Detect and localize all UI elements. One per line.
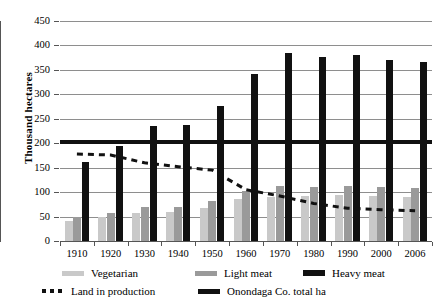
x-tick-mark — [128, 242, 129, 246]
y-tick-mark — [54, 45, 59, 46]
y-tick-label: 150 — [18, 163, 50, 173]
x-tick-mark — [398, 242, 399, 246]
x-tick-mark — [331, 242, 332, 246]
legend-label: Vegetarian — [91, 267, 138, 279]
gridline-0 — [60, 241, 432, 242]
x-tick-mark — [94, 242, 95, 246]
y-tick-label: 350 — [18, 65, 50, 75]
y-tick-label: 300 — [18, 89, 50, 99]
y-tick-label: 250 — [18, 114, 50, 124]
plot-area — [60, 21, 432, 241]
chart-legend: VegetarianLight meatHeavy meatLand in pr… — [0, 266, 446, 306]
x-tick-mark — [263, 242, 264, 246]
y-tick-mark — [54, 119, 59, 120]
y-axis-line — [0, 21, 1, 242]
y-tick-mark — [54, 94, 59, 95]
y-tick-label: 200 — [18, 138, 50, 148]
y-tick-label: 0 — [18, 236, 50, 246]
chart-container: Thousand hectares 0501001502002503003504… — [0, 0, 446, 308]
legend-item-total[interactable]: Onondaga Co. total ha — [198, 284, 326, 298]
x-tick-mark — [161, 242, 162, 246]
legend-item-heavy[interactable]: Heavy meat — [303, 266, 385, 280]
y-tick-label: 400 — [18, 40, 50, 50]
legend-label: Onondaga Co. total ha — [227, 285, 326, 297]
y-tick-mark — [54, 168, 59, 169]
legend-label: Heavy meat — [332, 267, 385, 279]
y-tick-mark — [54, 70, 59, 71]
legend-swatch-heavy-icon — [303, 270, 325, 276]
legend-swatch-light-icon — [195, 271, 217, 276]
y-tick-mark — [54, 21, 59, 22]
legend-label: Land in production — [71, 285, 155, 297]
legend-item-dashed[interactable]: Land in production — [42, 284, 155, 298]
legend-swatch-total-icon — [198, 289, 220, 294]
y-tick-label: 50 — [18, 212, 50, 222]
y-tick-label: 450 — [18, 16, 50, 26]
legend-label: Light meat — [224, 267, 272, 279]
x-tick-mark — [432, 242, 433, 246]
legend-swatch-dashed-icon — [42, 288, 64, 294]
land-in-production-line — [60, 21, 432, 241]
legend-item-light[interactable]: Light meat — [195, 266, 272, 280]
y-tick-label: 100 — [18, 187, 50, 197]
legend-swatch-veg-icon — [62, 271, 84, 276]
x-tick-mark — [60, 242, 61, 246]
y-tick-mark — [54, 217, 59, 218]
y-tick-mark — [54, 143, 59, 144]
x-tick-mark — [297, 242, 298, 246]
legend-item-veg[interactable]: Vegetarian — [62, 266, 138, 280]
x-tick-mark — [229, 242, 230, 246]
x-tick-label-2006: 2006 — [395, 248, 435, 259]
x-tick-mark — [364, 242, 365, 246]
x-tick-mark — [195, 242, 196, 246]
y-tick-mark — [54, 241, 59, 242]
y-tick-mark — [54, 192, 59, 193]
